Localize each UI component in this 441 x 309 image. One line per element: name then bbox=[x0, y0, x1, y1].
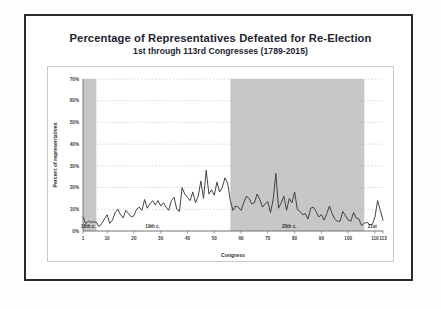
y-axis-tick-label: 60% bbox=[70, 98, 79, 103]
y-axis-title: Percent of representatives bbox=[52, 122, 58, 187]
y-axis-tick-label: 20% bbox=[70, 185, 79, 190]
x-axis-tick-label: 60 bbox=[238, 236, 244, 241]
line-chart: 0%10%20%30%40%50%60%70%11020304050607080… bbox=[48, 67, 393, 261]
slide-frame: Percentage of Representatives Defeated f… bbox=[24, 14, 413, 281]
x-axis-tick-label: 100 bbox=[344, 236, 352, 241]
x-axis-tick-label: 113 bbox=[379, 236, 387, 241]
x-axis-tick-label: 70 bbox=[265, 236, 271, 241]
x-axis-tick-label: 1 bbox=[82, 236, 85, 241]
y-axis-tick-label: 40% bbox=[70, 142, 79, 147]
x-axis-tick-label: 90 bbox=[319, 236, 325, 241]
y-axis-tick-label: 0% bbox=[72, 229, 79, 234]
x-axis-tick-label: 40 bbox=[185, 236, 191, 241]
x-axis-tick-label: 50 bbox=[212, 236, 218, 241]
title-block: Percentage of Representatives Defeated f… bbox=[26, 32, 415, 57]
era-annotation: 20th c. bbox=[282, 224, 297, 229]
chart-frame: 0%10%20%30%40%50%60%70%11020304050607080… bbox=[47, 66, 394, 262]
x-axis-tick-label: 110 bbox=[371, 236, 379, 241]
y-axis-tick-label: 50% bbox=[70, 120, 79, 125]
shaded-band bbox=[83, 79, 96, 231]
x-axis-tick-label: 30 bbox=[158, 236, 164, 241]
slide-page: Percentage of Representatives Defeated f… bbox=[0, 0, 441, 309]
x-axis-tick-label: 20 bbox=[131, 236, 137, 241]
x-axis-tick-label: 10 bbox=[105, 236, 111, 241]
page-title: Percentage of Representatives Defeated f… bbox=[26, 32, 415, 45]
y-axis-tick-label: 70% bbox=[70, 77, 79, 82]
x-axis-tick-label: 80 bbox=[292, 236, 298, 241]
y-axis-tick-label: 30% bbox=[70, 164, 79, 169]
x-axis-title: Congress bbox=[221, 252, 245, 258]
era-annotation: 18th c. bbox=[81, 224, 96, 229]
y-axis-tick-label: 10% bbox=[70, 207, 79, 212]
era-annotation: 19th c. bbox=[145, 224, 160, 229]
page-subtitle: 1st through 113rd Congresses (1789-2015) bbox=[26, 46, 415, 57]
era-annotation: 21st bbox=[368, 224, 378, 229]
